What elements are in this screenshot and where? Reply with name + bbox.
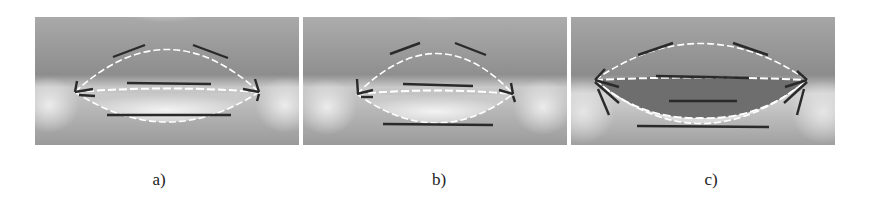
panel-c-image: [571, 17, 835, 145]
panel-b: [303, 17, 567, 145]
panel-b-image: [303, 17, 567, 145]
panel-c-label: c): [691, 170, 731, 190]
panel-a-image: [35, 17, 299, 145]
panel-b-label: b): [419, 170, 459, 190]
figure: a) b) c): [0, 0, 870, 202]
panel-c: [571, 17, 835, 145]
panel-a: [35, 17, 299, 145]
panel-a-label: a): [139, 170, 179, 190]
